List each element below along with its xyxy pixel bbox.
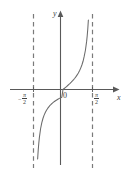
fraction-denominator: 2 bbox=[22, 99, 27, 105]
origin-label: 0 bbox=[63, 92, 67, 100]
fraction-pi-over-2-left: π 2 bbox=[22, 92, 27, 106]
fraction-pi-over-2-right: π 2 bbox=[94, 92, 99, 106]
y-axis-arrowhead bbox=[58, 11, 64, 18]
x-axis-arrowhead bbox=[113, 87, 120, 93]
tick-label-negative-pi-over-2: − π 2 bbox=[18, 92, 27, 106]
y-axis bbox=[58, 11, 64, 166]
y-axis-label: y bbox=[53, 10, 57, 18]
tangent-function-graph: y x 0 − π 2 π 2 bbox=[0, 0, 128, 173]
plot-area bbox=[0, 0, 128, 173]
fraction-denominator: 2 bbox=[94, 99, 99, 105]
x-axis-label: x bbox=[117, 94, 121, 102]
tick-label-pi-over-2: π 2 bbox=[94, 92, 99, 106]
minus-sign: − bbox=[18, 96, 21, 102]
